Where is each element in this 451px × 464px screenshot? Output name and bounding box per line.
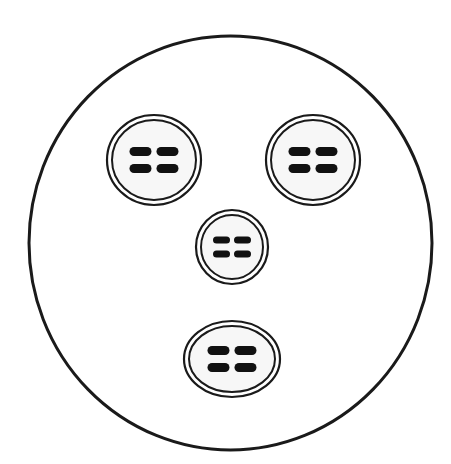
chromosome-bar [235, 363, 257, 372]
chromosome-bar [289, 164, 311, 173]
chromosome-bar [213, 251, 230, 258]
inner-cells [107, 115, 360, 397]
chromosome-bar [157, 164, 179, 173]
chromosome-bar [208, 363, 230, 372]
cell-inner-membrane [189, 326, 275, 392]
chromosome-bar [234, 251, 251, 258]
cell-top-left [107, 115, 201, 205]
cell-inner-membrane [201, 215, 263, 279]
chromosome-bar [316, 164, 338, 173]
cell-bottom [184, 321, 280, 397]
cell-inner-membrane [271, 120, 355, 200]
chromosome-bar [157, 147, 179, 156]
chromosome-bar [234, 237, 251, 244]
cell-top-right [266, 115, 360, 205]
chromosome-bar [235, 346, 257, 355]
chromosome-bar [316, 147, 338, 156]
chromosome-bar [130, 164, 152, 173]
cell-diagram [0, 0, 451, 464]
chromosome-bar [213, 237, 230, 244]
chromosome-bar [289, 147, 311, 156]
cell-middle [196, 210, 268, 284]
cell-inner-membrane [112, 120, 196, 200]
chromosome-bar [130, 147, 152, 156]
chromosome-bar [208, 346, 230, 355]
